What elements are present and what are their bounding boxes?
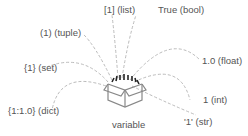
- value-dict: {1:1.0} (dict): [8, 106, 59, 116]
- value-list: [1] (list): [104, 5, 135, 15]
- value-str: '1' (str): [184, 117, 212, 127]
- value-bool: True (bool): [158, 5, 204, 15]
- value-float: 1.0 (float): [202, 56, 242, 66]
- value-tuple: (1) (tuple): [40, 28, 81, 38]
- value-set: {1} (set): [24, 63, 57, 73]
- variable-label: variable: [112, 120, 145, 130]
- value-int: 1 (int): [203, 95, 227, 105]
- box-icon: [102, 70, 148, 110]
